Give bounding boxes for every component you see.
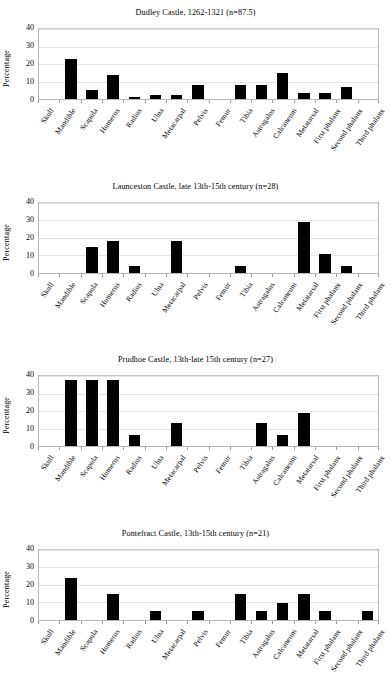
bar [298, 222, 309, 272]
x-tick [294, 274, 315, 278]
y-axis-ticks: 010203040 [14, 28, 36, 100]
x-tick [145, 447, 166, 451]
x-label-slot: Mandible [60, 626, 82, 682]
x-tick [145, 274, 166, 278]
y-tick-label: 20 [26, 234, 34, 242]
x-label-slot: Radius [126, 279, 148, 335]
bar-slot [39, 376, 60, 446]
x-label-slot: Mandible [60, 105, 82, 161]
bar-slot [357, 376, 378, 446]
bar [129, 97, 140, 99]
x-tick [59, 274, 80, 278]
chart-panel: Pontefract Castle, 13th-15th century (n=… [0, 521, 391, 694]
y-tick-label: 20 [26, 60, 34, 68]
x-label-slot: Femur [215, 626, 237, 682]
x-tick [336, 100, 357, 104]
x-tick [358, 621, 379, 625]
bar-slot [124, 550, 145, 620]
x-tick-label: Pelvis [192, 281, 210, 301]
x-tick [38, 100, 59, 104]
bar-slot [124, 29, 145, 99]
x-tick-label: Scapula [79, 628, 100, 653]
x-axis-ticks [38, 447, 379, 451]
bar [129, 266, 140, 272]
bar-slot [166, 376, 187, 446]
bar-slot [209, 550, 230, 620]
chart-title: Prudhoe Castle, 13th-late 15th century (… [0, 347, 391, 364]
x-label-slot: Radius [126, 626, 148, 682]
bar-slot [209, 29, 230, 99]
bar [86, 380, 97, 446]
x-tick [123, 274, 144, 278]
x-tick [209, 447, 230, 451]
bar-slot [39, 203, 60, 273]
x-tick [187, 100, 208, 104]
x-tick [251, 447, 272, 451]
x-tick [251, 621, 272, 625]
plot-area: Percentage010203040SkullMandibleScapulaH… [0, 191, 391, 279]
x-tick [315, 100, 336, 104]
plot-area: Percentage010203040SkullMandibleScapulaH… [0, 538, 391, 626]
x-tick-label: Ulna [151, 281, 166, 298]
x-tick-label: Ulna [151, 454, 166, 471]
x-tick [145, 100, 166, 104]
bar [192, 85, 203, 99]
bar-slot [293, 550, 314, 620]
x-tick [59, 100, 80, 104]
bar [319, 611, 330, 619]
chart-title: Launceston Castle, late 13th-15th centur… [0, 174, 391, 191]
bar [235, 266, 246, 272]
x-tick-label: Pelvis [192, 454, 210, 474]
bar-slot [314, 29, 335, 99]
y-tick-label: 40 [26, 198, 34, 206]
x-tick [209, 100, 230, 104]
bar-slot [230, 29, 251, 99]
bar-slot [103, 376, 124, 446]
bar [235, 594, 246, 619]
x-axis-labels: SkullMandibleScapulaHumerusRadiusUlnaMet… [38, 105, 391, 161]
bar-slot [60, 203, 81, 273]
bar-series [39, 29, 378, 99]
x-label-slot: Metacarpal [170, 279, 192, 335]
bar-slot [293, 376, 314, 446]
x-tick [315, 621, 336, 625]
plot-area: Percentage010203040SkullMandibleScapulaH… [0, 17, 391, 105]
bar-slot [314, 376, 335, 446]
x-tick [336, 274, 357, 278]
bar-slot [166, 29, 187, 99]
plot-frame [38, 28, 379, 100]
bar [129, 435, 140, 446]
y-tick-label: 40 [26, 545, 34, 553]
y-tick-label: 30 [26, 216, 34, 224]
y-tick-label: 20 [26, 581, 34, 589]
bar [319, 93, 330, 99]
bar-slot [124, 376, 145, 446]
y-tick-label: 0 [30, 443, 34, 451]
bar [171, 95, 182, 99]
bar [298, 413, 309, 446]
bar [277, 603, 288, 620]
chart-panel: Launceston Castle, late 13th-15th centur… [0, 174, 391, 348]
x-tick [187, 621, 208, 625]
x-tick [102, 274, 123, 278]
x-label-slot: Scapula [82, 105, 104, 161]
bar-slot [124, 203, 145, 273]
bar-slot [103, 203, 124, 273]
x-tick [294, 447, 315, 451]
bar [256, 611, 267, 619]
x-label-slot: Third phalanx [369, 279, 391, 335]
x-label-slot: Third phalanx [369, 626, 391, 682]
bar-slot [251, 550, 272, 620]
bar-slot [145, 29, 166, 99]
x-tick [145, 621, 166, 625]
bar [86, 90, 97, 99]
x-tick-label: Scapula [79, 454, 100, 479]
bar [107, 380, 118, 446]
y-axis-ticks: 010203040 [14, 375, 36, 447]
bar-slot [230, 376, 251, 446]
x-label-slot: Mandible [60, 452, 82, 508]
bar-slot [293, 29, 314, 99]
bar-slot [251, 376, 272, 446]
x-tick [230, 621, 251, 625]
bar [277, 73, 288, 99]
